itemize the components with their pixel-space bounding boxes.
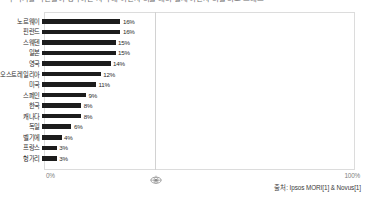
- bar-row: 오스트레일리아12%: [0, 69, 368, 80]
- chart-headline: 각 국가별 국민들이 생각하는 자국 내 이민자 비율 대비 실제 이민자 비율…: [6, 0, 362, 4]
- bar-row: 독일6%: [0, 121, 368, 132]
- bar-row: 스웨덴15%: [0, 37, 368, 48]
- bar-category-label: 일본: [0, 49, 42, 56]
- bar-segment: [42, 103, 81, 108]
- bar-category-label: 스웨덴: [0, 39, 42, 46]
- bar-segment: [42, 61, 111, 66]
- bar-track: 8%: [42, 100, 368, 111]
- bar-segment: [42, 124, 71, 129]
- bar-category-label: 한국: [0, 102, 42, 109]
- bar-value-label: 15%: [118, 39, 130, 46]
- bar-track: 15%: [42, 37, 368, 48]
- bar-segment: [42, 40, 116, 45]
- bar-category-label: 오스트레일리아: [0, 71, 42, 78]
- axis-tick-max: 100%: [344, 172, 360, 179]
- axis-tick-min: 0%: [46, 172, 55, 179]
- bar-value-label: 8%: [84, 102, 93, 109]
- bar-value-label: 16%: [123, 18, 135, 25]
- bar-segment: [42, 114, 81, 119]
- bar-value-label: 4%: [64, 134, 73, 141]
- bar-track: 12%: [42, 69, 368, 80]
- bar-segment: [42, 146, 57, 151]
- bar-row: 벨기에4%: [0, 132, 368, 143]
- bar-category-label: 헝가리: [0, 155, 42, 162]
- bar-track: 4%: [42, 132, 368, 143]
- bar-segment: [42, 51, 116, 56]
- bar-track: 6%: [42, 121, 368, 132]
- bar-row: 노르웨이16%: [0, 16, 368, 27]
- globe-marker-icon: [149, 171, 163, 181]
- bar-category-label: 영국: [0, 60, 42, 67]
- bar-segment: [42, 82, 96, 87]
- bar-track: 8%: [42, 111, 368, 122]
- bar-segment: [42, 135, 62, 140]
- bar-row: 한국8%: [0, 100, 368, 111]
- bar-category-label: 스페인: [0, 92, 42, 99]
- bar-track: 3%: [42, 153, 368, 164]
- bar-value-label: 14%: [113, 60, 125, 67]
- bar-row: 캐나다8%: [0, 111, 368, 122]
- bar-category-label: 미국: [0, 81, 42, 88]
- bar-value-label: 6%: [74, 123, 83, 130]
- bar-category-label: 벨기에: [0, 134, 42, 141]
- bar-track: 3%: [42, 143, 368, 154]
- bar-row: 영국14%: [0, 58, 368, 69]
- bar-row: 스페인9%: [0, 90, 368, 101]
- bar-category-label: 노르웨이: [0, 18, 42, 25]
- bar-value-label: 11%: [98, 81, 109, 88]
- bar-track: 15%: [42, 48, 368, 59]
- bar-segment: [42, 72, 101, 77]
- bar-value-label: 8%: [84, 113, 93, 120]
- bar-value-label: 3%: [59, 144, 68, 151]
- bar-segment: [42, 93, 86, 98]
- bar-row: 미국11%: [0, 79, 368, 90]
- bar-segment: [42, 30, 120, 35]
- source-attribution: 출처: Ipsos MORI[1] & Novus[1]: [274, 183, 361, 192]
- bar-rows: 노르웨이16%핀란드16%스웨덴15%일본15%영국14%오스트레일리아12%미…: [0, 16, 368, 164]
- bar-category-label: 핀란드: [0, 28, 42, 35]
- bar-value-label: 3%: [59, 155, 68, 162]
- bar-category-label: 프랑스: [0, 144, 42, 151]
- bar-segment: [42, 19, 120, 24]
- bar-row: 일본15%: [0, 48, 368, 59]
- bar-track: 16%: [42, 16, 368, 27]
- bar-category-label: 캐나다: [0, 113, 42, 120]
- bar-value-label: 9%: [89, 92, 98, 99]
- bar-track: 16%: [42, 27, 368, 38]
- bar-row: 핀란드16%: [0, 27, 368, 38]
- bar-value-label: 16%: [123, 28, 135, 35]
- bar-track: 11%: [42, 79, 368, 90]
- bar-value-label: 15%: [118, 49, 130, 56]
- bar-category-label: 독일: [0, 123, 42, 130]
- bar-track: 9%: [42, 90, 368, 101]
- bar-value-label: 12%: [103, 71, 115, 78]
- bar-segment: [42, 156, 57, 161]
- bar-row: 프랑스3%: [0, 143, 368, 154]
- bar-row: 헝가리3%: [0, 153, 368, 164]
- bar-track: 14%: [42, 58, 368, 69]
